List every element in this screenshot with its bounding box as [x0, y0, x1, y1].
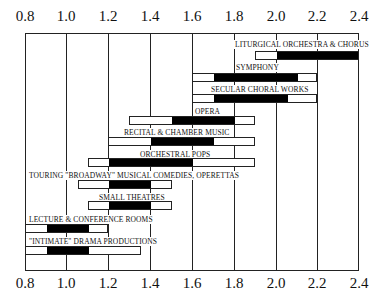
- bottom-tick-1.6: 1.6: [183, 275, 202, 292]
- row-label: "INTIMATE" DRAMA PRODUCTIONS: [28, 237, 158, 246]
- bottom-tick-2.4: 2.4: [350, 275, 369, 292]
- optimal-range-bar: [47, 225, 89, 232]
- top-tick-1.0: 1.0: [57, 8, 76, 25]
- top-tick-1.8: 1.8: [225, 8, 244, 25]
- top-tick-2.2: 2.2: [308, 8, 327, 25]
- bottom-tick-1.0: 1.0: [57, 275, 76, 292]
- range-bar: [78, 180, 172, 189]
- optimal-range-bar: [151, 138, 214, 145]
- range-bar: [25, 224, 108, 233]
- optimal-range-bar: [214, 74, 298, 81]
- bottom-tick-0.8: 0.8: [16, 275, 35, 292]
- top-tick-1.6: 1.6: [183, 8, 202, 25]
- top-tick-0.8: 0.8: [16, 8, 35, 25]
- optimal-range-bar: [277, 52, 358, 59]
- row-label: SECULAR CHORAL WORKS: [210, 85, 309, 94]
- row-label: OPERA: [194, 107, 221, 116]
- top-tick-2.4: 2.4: [350, 8, 369, 25]
- range-bar: [88, 158, 255, 167]
- optimal-range-bar: [109, 181, 151, 188]
- bottom-tick-1.8: 1.8: [225, 275, 244, 292]
- range-bar: [129, 116, 255, 125]
- optimal-range-bar: [109, 159, 193, 166]
- row-label: LITURGICAL ORCHESTRA & CHORUS: [234, 40, 370, 49]
- top-tick-1.4: 1.4: [141, 8, 160, 25]
- optimal-range-bar: [172, 117, 235, 124]
- gridline: [317, 33, 318, 271]
- row-label: SYMPHONY: [235, 63, 280, 72]
- gridline: [66, 33, 67, 271]
- range-bar: [192, 73, 317, 82]
- row-label: RECITAL & CHAMBER MUSIC: [123, 128, 230, 137]
- gridline: [108, 33, 109, 271]
- optimal-range-bar: [47, 247, 89, 254]
- range-bar: [88, 201, 172, 210]
- row-label: LECTURE & CONFERENCE ROOMS: [28, 215, 154, 224]
- range-bar: [108, 137, 255, 146]
- bottom-tick-1.2: 1.2: [99, 275, 118, 292]
- top-tick-2.0: 2.0: [267, 8, 286, 25]
- top-tick-1.2: 1.2: [99, 8, 118, 25]
- bottom-tick-2.0: 2.0: [267, 275, 286, 292]
- row-label: TOURING "BROADWAY" MUSICAL COMEDIES, OPE…: [28, 171, 240, 180]
- range-bar: [255, 51, 359, 60]
- optimal-range-bar: [109, 202, 151, 209]
- optimal-range-bar: [214, 95, 288, 102]
- range-bar: [192, 94, 317, 103]
- bottom-tick-2.2: 2.2: [308, 275, 327, 292]
- range-bar: [25, 246, 141, 255]
- bottom-tick-1.4: 1.4: [141, 275, 160, 292]
